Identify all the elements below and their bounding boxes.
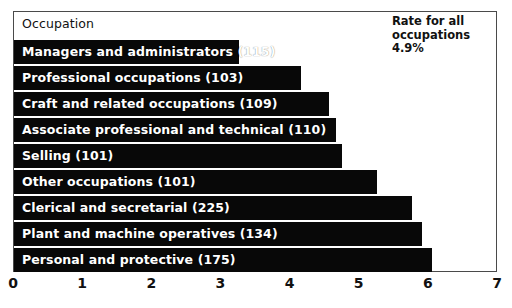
bar-label: Craft and related occupations (109) bbox=[22, 92, 278, 116]
bar-row: Craft and related occupations (109) bbox=[14, 92, 496, 116]
bar-label: Plant and machine operatives (134) bbox=[22, 222, 278, 246]
bar-label: Personal and protective (175) bbox=[22, 248, 236, 272]
cut-off-caption bbox=[14, 300, 314, 308]
x-axis-tick-2: 2 bbox=[146, 274, 156, 292]
rate-note-line-1: Rate for all bbox=[392, 15, 487, 29]
bar-label: Clerical and secretarial (225) bbox=[22, 196, 230, 220]
bar-row: Clerical and secretarial (225) bbox=[14, 196, 496, 220]
bar-label: Selling (101) bbox=[22, 144, 113, 168]
x-axis-tick-6: 6 bbox=[423, 274, 433, 292]
x-axis-tick-7: 7 bbox=[492, 274, 502, 292]
x-axis-tick-1: 1 bbox=[77, 274, 87, 292]
bar-label: Other occupations (101) bbox=[22, 170, 196, 194]
rate-note-line-2: occupations bbox=[392, 29, 487, 43]
bar-label: Professional occupations (103) bbox=[22, 66, 243, 90]
x-axis-tick-3: 3 bbox=[216, 274, 226, 292]
bar-row: Personal and protective (175) bbox=[14, 248, 496, 272]
rate-for-all-occupations-note: Rate for all occupations 4.9% bbox=[392, 15, 487, 56]
bar-row: Professional occupations (103) bbox=[14, 66, 496, 90]
bar-row: Plant and machine operatives (134) bbox=[14, 222, 496, 246]
x-axis-tick-4: 4 bbox=[285, 274, 295, 292]
bar-row: Associate professional and technical (11… bbox=[14, 118, 496, 142]
bar-row: Other occupations (101) bbox=[14, 170, 496, 194]
x-axis-tick-5: 5 bbox=[354, 274, 364, 292]
x-axis-tick-0: 0 bbox=[8, 274, 18, 292]
bar-row: Selling (101) bbox=[14, 144, 496, 168]
rate-note-value: 4.9% bbox=[392, 42, 487, 56]
bar-label: Managers and administrators (115) bbox=[22, 40, 275, 64]
bar-label: Associate professional and technical (11… bbox=[22, 118, 326, 142]
column-header-occupation: Occupation bbox=[22, 16, 94, 31]
x-axis: 01234567 bbox=[0, 274, 512, 296]
chart-frame: Occupation Managers and administrators (… bbox=[13, 11, 497, 272]
